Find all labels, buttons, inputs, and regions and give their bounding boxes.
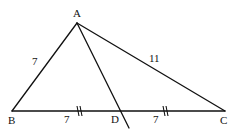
length-label-ac: 11 xyxy=(149,52,160,64)
length-label-dc: 7 xyxy=(153,113,159,125)
length-label-ab: 7 xyxy=(32,55,38,67)
vertex-label-c: C xyxy=(220,114,227,126)
triangle-diagram: A B C D 7 11 7 7 xyxy=(0,0,230,131)
vertex-label-d: D xyxy=(111,113,119,125)
length-label-bd: 7 xyxy=(64,113,70,125)
segment-ab xyxy=(12,23,77,111)
vertex-label-a: A xyxy=(73,7,81,19)
vertex-label-b: B xyxy=(8,114,15,126)
